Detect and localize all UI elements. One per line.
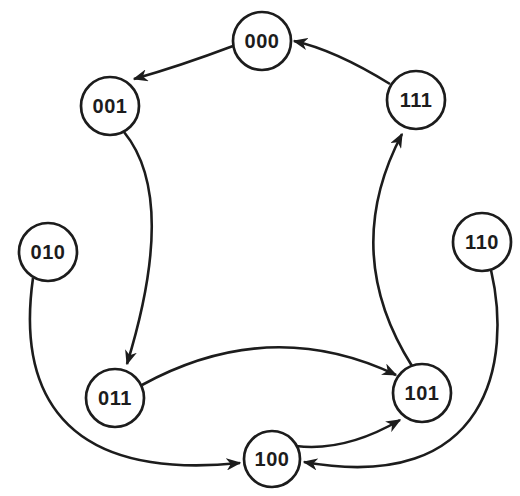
- state-node-100: 100: [244, 431, 300, 487]
- state-label-010: 010: [31, 241, 66, 263]
- transition-arrow-110-to-100: [304, 270, 497, 467]
- transition-arrow-101-to-111: [373, 134, 412, 366]
- state-node-011: 011: [86, 369, 144, 427]
- state-label-111: 111: [400, 89, 433, 111]
- transition-arrow-011-to-101: [142, 347, 396, 385]
- state-node-111: 111: [387, 71, 445, 129]
- state-diagram-canvas: 000001010011100101110111: [0, 0, 520, 496]
- state-node-000: 000: [233, 12, 291, 70]
- state-label-000: 000: [245, 30, 280, 52]
- state-node-001: 001: [81, 77, 139, 135]
- state-nodes-layer: 000001010011100101110111: [19, 12, 511, 487]
- state-node-101: 101: [393, 364, 451, 422]
- transition-arrow-100-to-101: [296, 420, 400, 447]
- transition-arrow-000-to-001: [134, 46, 233, 79]
- state-label-100: 100: [255, 448, 290, 470]
- state-node-110: 110: [453, 213, 511, 271]
- state-label-110: 110: [465, 231, 499, 253]
- state-diagram-figure: 000001010011100101110111: [0, 0, 520, 496]
- transition-arrow-010-to-100: [30, 278, 240, 465]
- state-label-011: 011: [98, 387, 132, 409]
- state-node-010: 010: [19, 223, 77, 281]
- transition-arrow-111-to-000: [294, 41, 390, 84]
- state-label-001: 001: [93, 95, 128, 117]
- state-label-101: 101: [405, 382, 440, 404]
- transition-arrow-001-to-011: [124, 132, 152, 364]
